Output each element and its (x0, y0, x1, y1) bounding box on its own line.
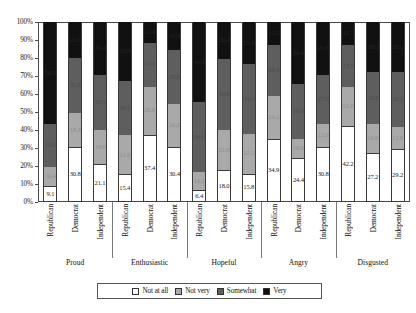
bar-segment[interactable]: 56.5 (43, 22, 57, 124)
bar-segment[interactable]: 15.8 (167, 22, 181, 50)
bar-segment[interactable]: 12.6 (316, 124, 330, 147)
bar-segment[interactable]: 18.0 (217, 170, 231, 202)
bar-segment[interactable]: 24.4 (291, 158, 305, 202)
bar-segment[interactable]: 20.4 (217, 22, 231, 59)
bar-segment[interactable]: 23.4 (242, 22, 256, 64)
bar-segment[interactable]: 9.1 (43, 186, 57, 202)
y-axis-tick-label: 100% (17, 18, 33, 26)
bar-segment[interactable]: 30.8 (68, 58, 82, 113)
bar-segment[interactable]: 29.4 (93, 22, 107, 75)
bar-stack[interactable]: 30.424.029.815.8 (167, 22, 181, 202)
bar-stack[interactable]: 18.021.839.820.4 (217, 22, 231, 202)
bar-segment[interactable]: 18.4 (68, 113, 82, 146)
y-axis-tick-label: 10% (20, 180, 33, 188)
bar-stack[interactable]: 24.410.630.434.6 (291, 22, 305, 202)
bar-segment-value-label: 12.6 (318, 132, 329, 139)
x-axis-tick-label: Independent (245, 204, 254, 239)
bar-segment[interactable]: 12.5 (267, 22, 281, 45)
bar-segment[interactable]: 12.7 (341, 22, 355, 45)
bar-stack[interactable]: 42.221.623.512.7 (341, 22, 355, 202)
bar-segment[interactable]: 30.8 (68, 147, 82, 202)
bar-stack[interactable]: 37.426.624.611.4 (143, 22, 157, 202)
bar-segment[interactable]: 30.4 (167, 147, 181, 202)
bar-segment[interactable]: 34.6 (291, 22, 305, 84)
x-axis-group-labels: ProudEnthusiasticHopefulAngryDisgusted (38, 258, 410, 274)
bar-stack[interactable]: 30.818.430.820.0 (68, 22, 82, 202)
y-axis-tick-label: 0% (24, 198, 33, 206)
bar-segment[interactable]: 30.5 (93, 75, 107, 130)
legend-item[interactable]: Not at all (132, 287, 168, 295)
bar-segment[interactable]: 28.4 (267, 45, 281, 96)
y-axis-tick-label: 80% (20, 54, 33, 62)
bar-segment[interactable]: 24.2 (267, 96, 281, 140)
bar-segment[interactable]: 37.4 (143, 135, 157, 202)
bar-segment[interactable]: 11.4 (143, 22, 157, 43)
bar-stack[interactable]: 21.119.030.529.4 (93, 22, 107, 202)
bar-segment[interactable]: 29.8 (167, 50, 181, 104)
bar-segment[interactable]: 30.4 (291, 84, 305, 139)
bar-segment[interactable]: 27.0 (316, 75, 330, 124)
bar-segment-value-label: 22.2 (243, 150, 254, 157)
bar-segment[interactable]: 29.6 (316, 22, 330, 75)
y-axis-tick-label: 30% (20, 144, 33, 152)
bar-stack[interactable]: 34.924.228.412.5 (267, 22, 281, 202)
bar-stack[interactable]: 29.212.630.228.0 (391, 22, 405, 202)
bar-stack[interactable]: 27.216.028.828.0 (366, 22, 380, 202)
bar-segment[interactable]: 24.0 (43, 124, 57, 167)
y-axis-tick-mark (35, 202, 38, 203)
bar-segment[interactable]: 12.6 (391, 127, 405, 150)
bar-segment[interactable]: 26.6 (143, 87, 157, 135)
bar-segment[interactable]: 28.0 (391, 22, 405, 72)
bar-segment[interactable]: 21.8 (217, 130, 231, 169)
bar-segment[interactable]: 16.0 (366, 124, 380, 153)
bar-segment[interactable]: 19.0 (93, 130, 107, 164)
bar-segment[interactable]: 32.8 (118, 22, 132, 81)
bar-segment[interactable]: 28.0 (366, 22, 380, 72)
bar-segment[interactable]: 29.2 (391, 149, 405, 202)
bar-stack[interactable]: 6.410.239.044.4 (192, 22, 206, 202)
bar-segment[interactable]: 24.0 (167, 104, 181, 147)
bar-segment[interactable]: 38.6 (242, 64, 256, 133)
bar-segment[interactable]: 30.2 (391, 72, 405, 126)
bar-segment[interactable]: 27.2 (366, 153, 380, 202)
bar-segment[interactable]: 21.1 (93, 164, 107, 202)
bar-segment[interactable]: 22.2 (242, 134, 256, 174)
bar-segment[interactable]: 21.6 (341, 87, 355, 126)
bar-segment[interactable]: 39.8 (217, 59, 231, 131)
x-axis-tick-label: Republican (121, 204, 130, 237)
bar-segment[interactable]: 39.0 (192, 102, 206, 172)
bar-segment[interactable]: 30.8 (316, 147, 330, 202)
bar-stack[interactable]: 9.110.424.056.5 (43, 22, 57, 202)
bar-segment[interactable]: 30.2 (118, 81, 132, 135)
bar-stack[interactable]: 15.421.630.232.8 (118, 22, 132, 202)
group-separator (187, 202, 188, 258)
bar-segment-value-label: 23.4 (243, 40, 254, 47)
bar-segment[interactable]: 42.2 (341, 126, 355, 202)
bar-segment[interactable]: 23.5 (341, 45, 355, 87)
legend-item[interactable]: Very (263, 287, 286, 295)
y-axis-tick-label: 70% (20, 72, 33, 80)
bar-segment[interactable]: 44.4 (192, 22, 206, 102)
bar-segment[interactable]: 24.6 (143, 43, 157, 87)
x-axis-tick-label: Democrat (220, 204, 229, 232)
bar-segment[interactable]: 21.6 (118, 135, 132, 174)
bar-segment[interactable]: 20.0 (68, 22, 82, 58)
bar-segment[interactable]: 28.8 (366, 72, 380, 124)
bar-segment[interactable]: 6.4 (192, 190, 206, 202)
bar-segment[interactable]: 10.6 (291, 139, 305, 158)
x-axis-tick-label: Democrat (369, 204, 378, 232)
bar-segment[interactable]: 10.2 (192, 172, 206, 190)
x-axis-tick-label: Independent (96, 204, 105, 239)
bar-segment[interactable]: 34.9 (267, 139, 281, 202)
bar-stack[interactable]: 30.812.627.029.6 (316, 22, 330, 202)
bar-segment[interactable]: 15.4 (118, 174, 132, 202)
chart-legend: Not at allNot verySomewhatVery (97, 283, 322, 299)
legend-item[interactable]: Somewhat (217, 287, 257, 295)
bar-segment[interactable]: 15.8 (242, 174, 256, 202)
legend-item[interactable]: Not very (175, 287, 210, 295)
bar-segment[interactable]: 10.4 (43, 167, 57, 186)
legend-label: Somewhat (227, 287, 257, 295)
bar-segment-value-label: 21.6 (119, 152, 130, 159)
bar-stack[interactable]: 15.822.238.623.4 (242, 22, 256, 202)
y-axis-tick-mark (35, 22, 38, 23)
